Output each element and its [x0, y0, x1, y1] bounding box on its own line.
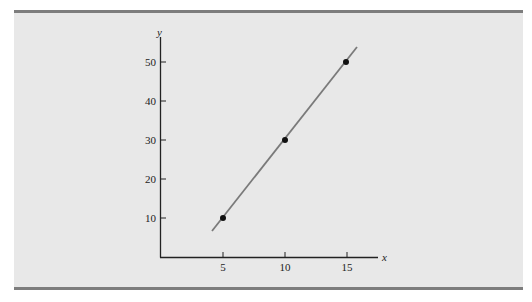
x-tick-label: 10	[280, 261, 292, 273]
x-tick-label: 5	[220, 261, 226, 273]
y-tick-label: 40	[145, 95, 157, 107]
data-point	[282, 137, 288, 143]
scatter-chart: y x 50 40 30 20 10 5 10 15	[0, 0, 532, 302]
data-point	[220, 215, 226, 221]
y-tick-label: 50	[145, 56, 157, 68]
y-tick-label: 10	[145, 212, 157, 224]
x-tick-label: 15	[342, 261, 354, 273]
y-tick-label: 20	[145, 173, 157, 185]
x-axis-label: x	[381, 251, 387, 263]
data-point	[343, 59, 349, 65]
x-ticks: 5 10 15	[220, 252, 353, 273]
y-axis-label: y	[156, 26, 162, 38]
y-tick-label: 30	[145, 134, 157, 146]
y-ticks: 50 40 30 20 10	[145, 56, 166, 224]
